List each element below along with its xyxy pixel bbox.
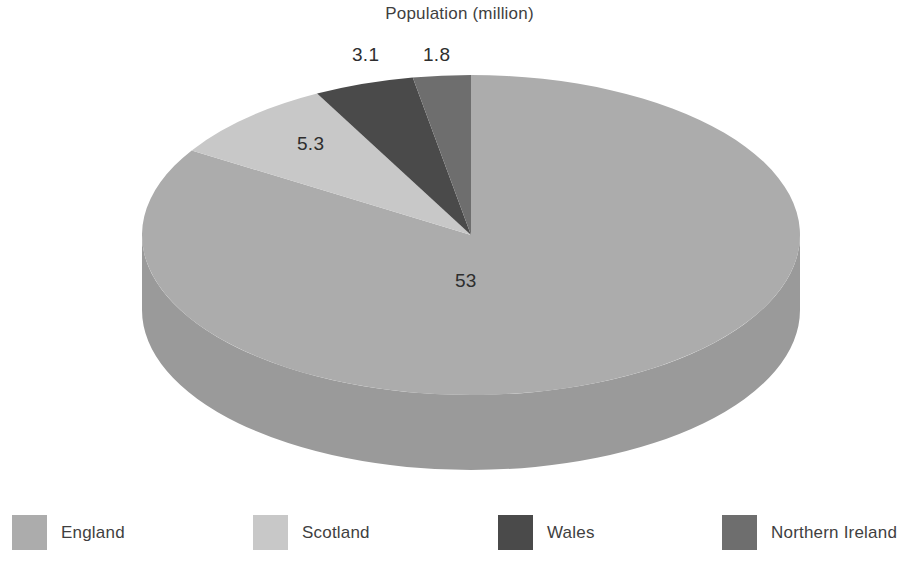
- data-label-england: 53: [455, 270, 477, 292]
- legend-item-england[interactable]: England: [12, 515, 125, 550]
- legend-label-northern-ireland: Northern Ireland: [771, 523, 897, 543]
- legend-swatch-scotland: [253, 515, 288, 550]
- legend-swatch-northern-ireland: [722, 515, 757, 550]
- legend-swatch-england: [12, 515, 47, 550]
- pie-plot-area: 53 5.3 3.1 1.8: [0, 30, 919, 500]
- chart-legend: England Scotland Wales Northern Ireland: [0, 505, 919, 565]
- chart-title: Population (million): [0, 4, 919, 24]
- legend-item-northern-ireland[interactable]: Northern Ireland: [722, 515, 897, 550]
- legend-item-wales[interactable]: Wales: [498, 515, 595, 550]
- pie-chart-figure: Population (million) 53 5.3 3.1 1.8 Engl…: [0, 0, 919, 580]
- legend-label-wales: Wales: [547, 523, 595, 543]
- pie-top-slices: [142, 75, 800, 395]
- data-label-wales: 3.1: [352, 44, 379, 66]
- legend-swatch-wales: [498, 515, 533, 550]
- pie-svg: [0, 30, 919, 500]
- data-label-scotland: 5.3: [297, 133, 324, 155]
- legend-label-scotland: Scotland: [302, 523, 370, 543]
- legend-item-scotland[interactable]: Scotland: [253, 515, 370, 550]
- data-label-northern-ireland: 1.8: [423, 44, 450, 66]
- legend-label-england: England: [61, 523, 125, 543]
